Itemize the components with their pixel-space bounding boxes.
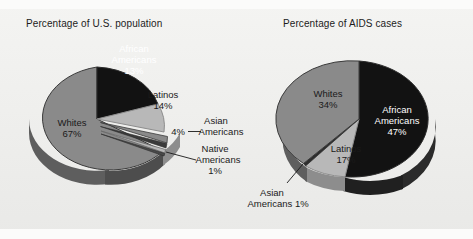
pie-chart-us-population: African Americans 13% Latinos 14% Whites… [0,0,245,239]
chart-title-aids-cases: Percentage of AIDS cases [283,18,402,29]
callout-asian-aids-line2: Americans 1% [247,198,309,209]
label-latinos-pct: 14% [153,100,173,111]
label-latinos-aids: Latinos [331,143,362,154]
label-african-americans-pct: 13% [124,65,144,76]
callout-asian-aids-line1: Asian [260,187,284,198]
chart-title-us-population: Percentage of U.S. population [26,18,162,29]
label-whites: Whites [57,117,86,128]
label-whites-pct: 67% [62,128,82,139]
label-african-americans-line1: African [119,43,149,54]
label-african-americans-aids-line2: Americans [375,115,420,126]
label-latinos: Latinos [148,89,179,100]
label-african-americans-line2: Americans [112,54,157,65]
depth-african-americans-bottom [343,175,403,195]
figure-canvas: Percentage of U.S. population [0,0,473,239]
chart-panel-us-population: Percentage of U.S. population [0,0,245,239]
label-african-americans-aids-pct: 47% [387,126,407,137]
label-latinos-aids-pct: 17% [336,154,356,165]
chart-panel-aids-cases: Percentage of AIDS cases [245,0,473,239]
label-whites-aids-pct: 34% [318,99,338,110]
pie-chart-aids-cases: Whites 34% African Americans 47% Latinos… [245,0,473,239]
label-whites-aids: Whites [313,88,342,99]
label-african-americans-aids-line1: African [382,104,412,115]
callout-asian-pct: 4% [171,126,185,137]
